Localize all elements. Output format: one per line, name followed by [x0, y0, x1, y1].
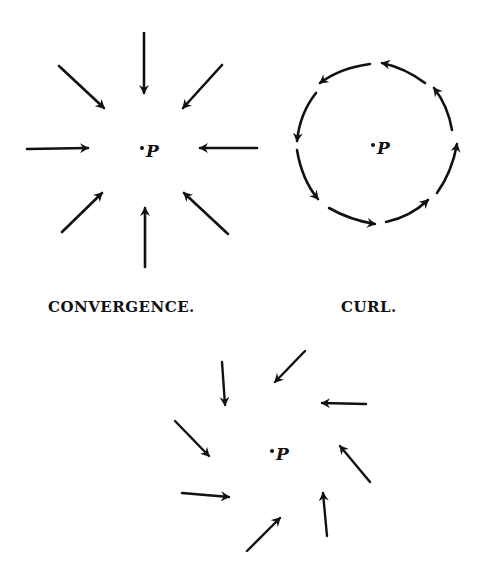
arrow-icon [386, 200, 428, 222]
arrow-icon [340, 446, 370, 482]
diagram-svg [0, 0, 489, 583]
arrow-icon [183, 65, 222, 108]
point-p-label: P [276, 444, 289, 464]
diagram-canvas: P P P CONVERGENCE. CURL. [0, 0, 489, 583]
caption-curl: CURL. [341, 298, 397, 316]
arrow-icon [247, 518, 280, 551]
arrow-icon [62, 193, 102, 232]
arrow-icon [297, 93, 316, 141]
arrow-icon [320, 64, 370, 83]
arrow-icon [329, 208, 375, 224]
arrow-icon [322, 403, 366, 404]
caption-convergence: CONVERGENCE. [48, 298, 195, 316]
point-p-dot [270, 449, 274, 453]
point-p-label: P [377, 138, 390, 158]
convergence-arrows [27, 33, 257, 267]
point-p-dot [371, 143, 375, 147]
arrow-icon [382, 63, 425, 83]
point-p-label: P [146, 141, 159, 161]
arrow-icon [275, 351, 305, 382]
arrow-icon [175, 421, 209, 456]
arrow-icon [59, 66, 104, 108]
point-p-dot [140, 146, 144, 150]
arrow-icon [297, 150, 318, 199]
arrow-icon [434, 88, 452, 130]
arrow-icon [27, 148, 88, 149]
arrow-icon [182, 493, 229, 497]
arrow-icon [184, 193, 228, 234]
arrow-icon [437, 144, 457, 193]
arrow-icon [222, 362, 225, 405]
arrow-icon [323, 493, 327, 536]
